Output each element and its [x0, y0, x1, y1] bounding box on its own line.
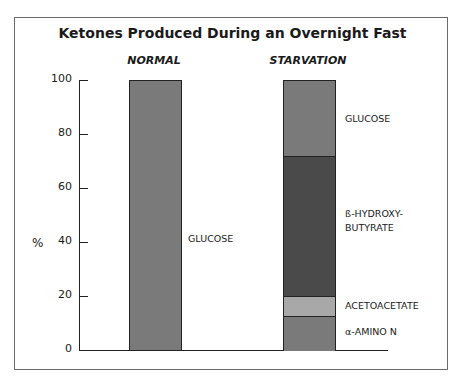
bar-normal-glucose [129, 80, 182, 351]
y-tick-label: 80 [36, 126, 72, 139]
bar-starvation [283, 80, 336, 351]
segment-amino-n [284, 316, 335, 351]
y-tick [79, 296, 88, 297]
category-label-starvation: STARVATION [248, 54, 368, 67]
y-axis [79, 80, 80, 350]
label-amino-n: α-AMINO N [345, 326, 397, 337]
y-tick-label: 20 [36, 288, 72, 301]
category-label-normal: NORMAL [94, 54, 214, 67]
y-axis-label: % [32, 236, 43, 250]
y-tick [79, 188, 88, 189]
y-tick [79, 134, 88, 135]
label-bhb-line2: BUTYRATE [345, 222, 394, 233]
label-acetoacetate: ACETOACETATE [345, 300, 419, 311]
y-tick-label: 0 [36, 342, 72, 355]
chart-title: Ketones Produced During an Overnight Fas… [0, 25, 465, 41]
x-axis [79, 350, 388, 351]
label-starvation-glucose: GLUCOSE [345, 113, 390, 124]
y-tick [79, 242, 88, 243]
label-bhb-line1: ß-HYDROXY- [345, 208, 403, 219]
y-tick-label: 60 [36, 180, 72, 193]
y-tick [79, 80, 88, 81]
y-tick-label: 100 [36, 72, 72, 85]
segment-acetoacetate [284, 296, 335, 316]
label-normal-glucose: GLUCOSE [188, 233, 233, 244]
segment-bhb [284, 156, 335, 296]
